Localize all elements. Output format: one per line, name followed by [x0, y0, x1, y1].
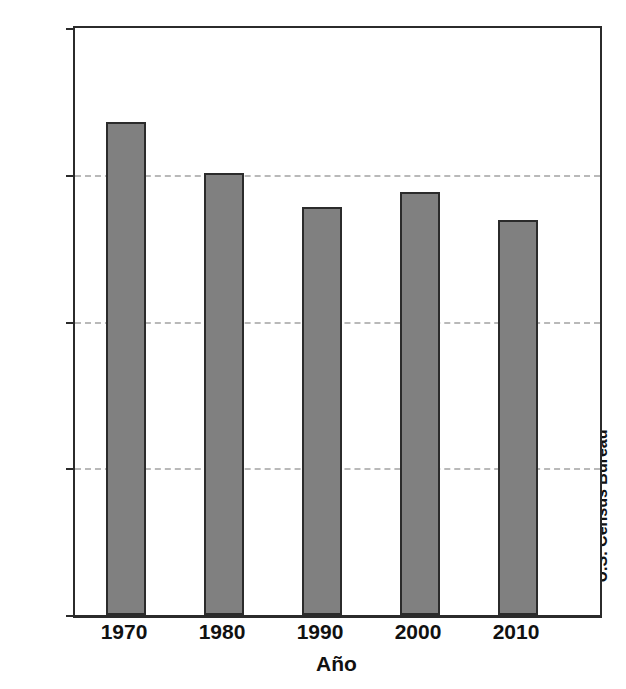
y-tick-0	[66, 615, 75, 617]
x-tick-label-2000: 2000	[363, 620, 473, 644]
plot-area	[73, 26, 602, 618]
bar-1990	[302, 207, 342, 615]
y-tick-4	[66, 28, 75, 30]
bar-1970	[106, 122, 146, 615]
x-tick-label-1990: 1990	[265, 620, 375, 644]
x-axis-title: Año	[73, 652, 600, 676]
bar-chart-figure: Población (en millones) U.S. Census Bure…	[0, 0, 626, 689]
x-tick-label-2010: 2010	[461, 620, 571, 644]
gridline-y-3	[75, 175, 600, 177]
bar-2010	[498, 220, 538, 615]
x-tick-label-1980: 1980	[167, 620, 277, 644]
y-tick-3	[66, 175, 75, 177]
bar-1980	[204, 173, 244, 615]
y-tick-2	[66, 322, 75, 324]
bar-2000	[400, 192, 440, 615]
x-tick-label-1970: 1970	[69, 620, 179, 644]
y-tick-1	[66, 468, 75, 470]
